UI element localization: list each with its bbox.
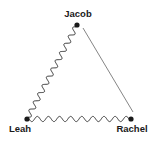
- label-rachel: Rachel: [116, 124, 147, 134]
- node-leah: [24, 116, 29, 121]
- label-leah: Leah: [9, 124, 31, 134]
- edge-jacob-rachel: [83, 28, 133, 112]
- node-rachel: [128, 116, 133, 121]
- edge-jacob-leah: [28, 27, 76, 117]
- label-jacob: Jacob: [64, 9, 91, 19]
- node-jacob: [74, 22, 79, 27]
- edge-leah-rachel: [29, 116, 129, 121]
